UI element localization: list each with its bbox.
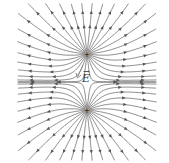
svg-text:+: + bbox=[84, 107, 90, 115]
svg-text:+: + bbox=[84, 51, 90, 59]
field-vector-label: E → bbox=[82, 72, 90, 85]
